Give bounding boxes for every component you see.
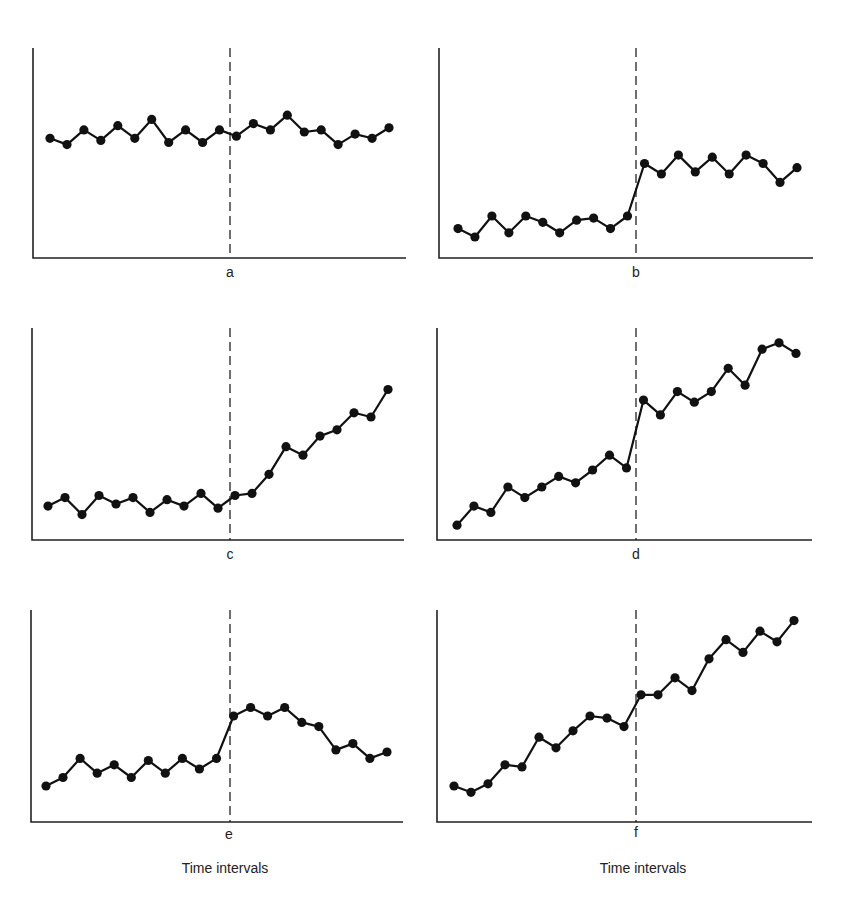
data-point xyxy=(589,214,598,223)
data-point xyxy=(111,499,120,508)
data-point xyxy=(263,711,272,720)
data-point xyxy=(383,385,392,394)
data-point xyxy=(772,637,781,646)
data-point xyxy=(690,398,699,407)
data-point xyxy=(640,159,649,168)
data-point xyxy=(453,224,462,233)
data-point xyxy=(96,136,105,145)
data-point xyxy=(212,754,221,763)
data-point xyxy=(162,495,171,504)
data-point xyxy=(792,163,801,172)
data-point xyxy=(264,470,273,479)
data-point xyxy=(164,138,173,147)
data-point xyxy=(332,425,341,434)
x-axis-label-right: Time intervals xyxy=(600,860,687,876)
axes-b xyxy=(439,48,813,258)
x-axis-label-left: Time intervals xyxy=(182,860,269,876)
data-point xyxy=(144,756,153,765)
data-point xyxy=(504,228,513,237)
data-point xyxy=(623,211,632,220)
data-point xyxy=(775,178,784,187)
data-point xyxy=(195,764,204,773)
data-point xyxy=(704,654,713,663)
data-point xyxy=(534,733,543,742)
data-point xyxy=(77,510,86,519)
data-point xyxy=(41,781,50,790)
data-point xyxy=(230,491,239,500)
data-point xyxy=(365,754,374,763)
data-point xyxy=(247,489,256,498)
panel-label-c: c xyxy=(227,546,234,562)
panel-label-e: e xyxy=(225,826,233,842)
data-point xyxy=(774,338,783,347)
data-point xyxy=(128,493,137,502)
data-point xyxy=(555,228,564,237)
data-point xyxy=(691,167,700,176)
data-point xyxy=(537,482,546,491)
data-point xyxy=(551,743,560,752)
data-point xyxy=(297,718,306,727)
data-point xyxy=(605,451,614,460)
data-point xyxy=(449,781,458,790)
data-point xyxy=(725,169,734,178)
interrupted-time-series-figure: a b c d e f Time intervals Time interval… xyxy=(0,0,841,902)
data-point xyxy=(707,387,716,396)
data-point xyxy=(232,132,241,141)
data-point xyxy=(452,521,461,530)
axes-a xyxy=(33,48,406,258)
data-point xyxy=(759,159,768,168)
data-point xyxy=(653,690,662,699)
data-point xyxy=(503,482,512,491)
data-point xyxy=(79,125,88,134)
data-point xyxy=(738,648,747,657)
data-point xyxy=(147,115,156,124)
data-point xyxy=(708,153,717,162)
data-point xyxy=(741,381,750,390)
data-point xyxy=(198,138,207,147)
data-point xyxy=(93,769,102,778)
data-point xyxy=(58,773,67,782)
data-point xyxy=(384,123,393,132)
data-point xyxy=(229,711,238,720)
data-point xyxy=(657,169,666,178)
series-line-d xyxy=(457,343,796,525)
data-point xyxy=(789,616,798,625)
data-point xyxy=(179,502,188,511)
data-point xyxy=(366,412,375,421)
data-point xyxy=(588,465,597,474)
data-point xyxy=(758,345,767,354)
data-point xyxy=(110,760,119,769)
panel-d xyxy=(437,328,812,540)
data-point xyxy=(517,762,526,771)
data-point xyxy=(368,134,377,143)
data-point xyxy=(280,703,289,712)
panel-b xyxy=(439,48,813,258)
data-point xyxy=(538,218,547,227)
data-point xyxy=(466,788,475,797)
panels-group xyxy=(31,48,813,822)
data-point xyxy=(145,508,154,517)
data-point xyxy=(43,502,52,511)
data-point xyxy=(470,232,479,241)
data-point xyxy=(215,125,224,134)
data-point xyxy=(619,722,628,731)
data-point xyxy=(673,387,682,396)
data-point xyxy=(45,134,54,143)
data-point xyxy=(755,627,764,636)
data-point xyxy=(331,745,340,754)
data-point xyxy=(554,472,563,481)
panel-label-a: a xyxy=(226,264,234,280)
panel-f xyxy=(437,610,812,822)
data-point xyxy=(161,769,170,778)
data-point xyxy=(602,714,611,723)
data-point xyxy=(469,502,478,511)
data-point xyxy=(349,408,358,417)
data-point xyxy=(283,111,292,120)
data-point xyxy=(348,739,357,748)
data-point xyxy=(791,349,800,358)
data-point xyxy=(300,127,309,136)
data-point xyxy=(281,442,290,451)
data-point xyxy=(62,140,71,149)
data-point xyxy=(568,726,577,735)
panel-label-f: f xyxy=(634,824,638,840)
